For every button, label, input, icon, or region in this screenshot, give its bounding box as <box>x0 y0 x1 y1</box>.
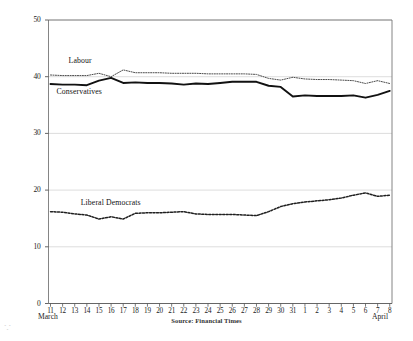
y-tick-label: 50 <box>25 15 41 24</box>
y-tick-label: 20 <box>25 185 41 194</box>
source-caption: Source: Financial Times <box>0 317 413 324</box>
plot-frame <box>49 20 393 304</box>
series-label-conservatives: Conservatives <box>57 87 102 96</box>
series-label-liberal-democrats: Liberal Democrats <box>81 198 141 207</box>
scan-artifact-mark: ∵ <box>4 322 16 335</box>
y-tick-label: 40 <box>25 72 41 81</box>
poll-rating-chart: Average Poll Rating % 01020304050 111213… <box>0 0 413 341</box>
chart-plot-area <box>0 0 413 341</box>
series-label-labour: Labour <box>69 56 92 65</box>
y-tick-label: 10 <box>25 242 41 251</box>
y-tick-label: 30 <box>25 128 41 137</box>
y-tick-label: 0 <box>25 299 41 308</box>
